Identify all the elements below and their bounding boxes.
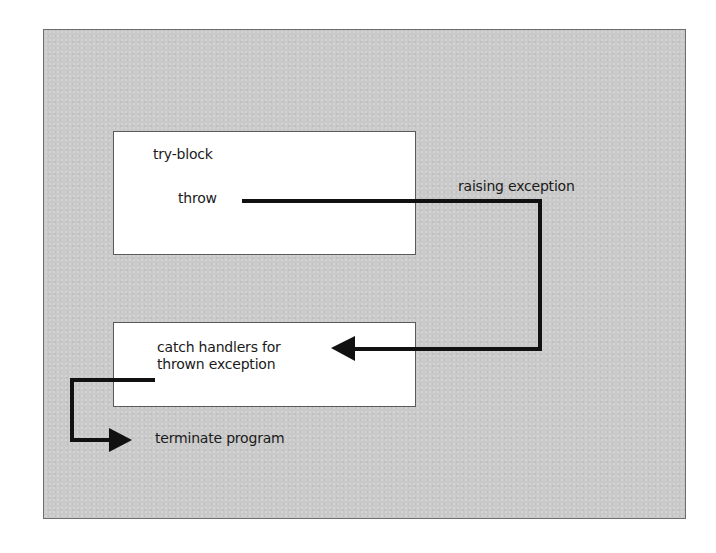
try-block-label: try-block: [153, 146, 213, 163]
diagram-panel: [43, 29, 686, 519]
catch-handlers-label: catch handlers for thrown exception: [157, 339, 327, 373]
terminate-program-label: terminate program: [155, 430, 285, 447]
raising-exception-label: raising exception: [458, 178, 575, 195]
throw-label: throw: [178, 190, 217, 207]
